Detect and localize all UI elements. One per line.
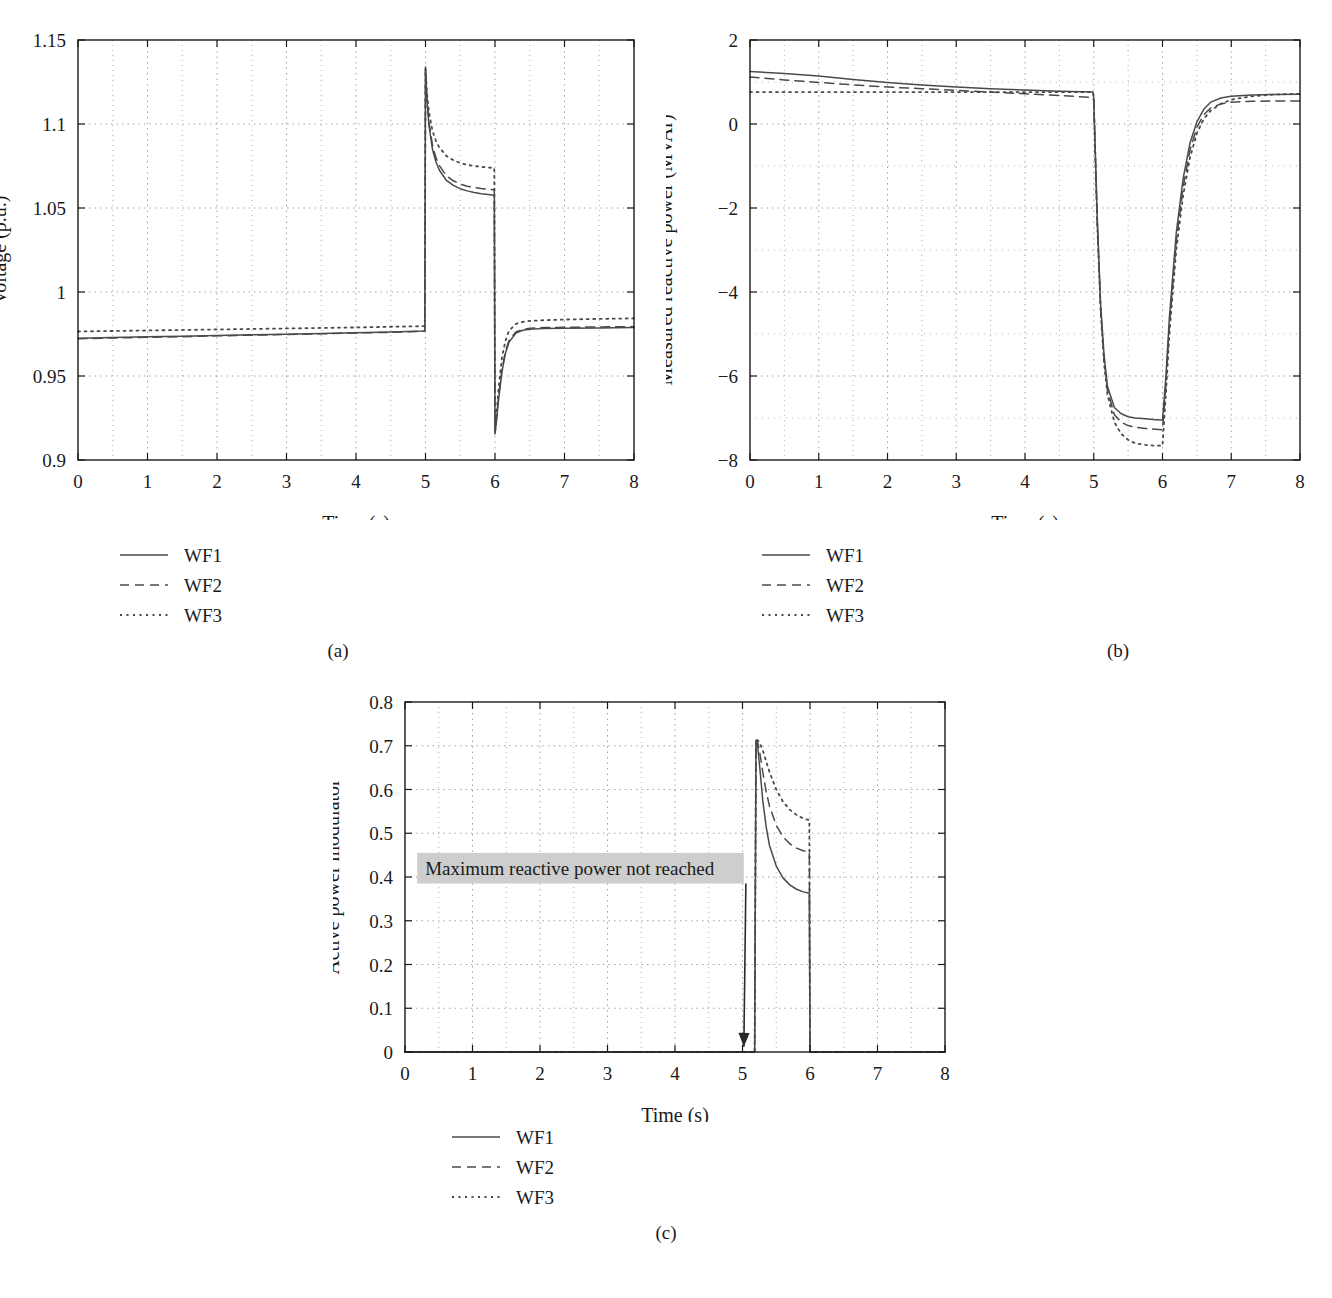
panel-a: 0123456780.90.9511.051.11.15Time (s)Volt…: [0, 0, 666, 520]
x-tick-label: 2: [535, 1063, 545, 1084]
x-tick-label: 8: [940, 1063, 950, 1084]
legend-key-dashed: [450, 1161, 502, 1173]
legend-item: WF2: [118, 570, 222, 600]
legend-key-solid: [760, 549, 812, 561]
legend-key-dotted: [760, 609, 812, 621]
y-tick-label: 0.4: [369, 867, 393, 888]
y-tick-label: 0.8: [369, 692, 393, 713]
x-tick-label: 1: [143, 471, 153, 492]
y-tick-label: 0.7: [369, 736, 393, 757]
legend-label-wf3: WF3: [516, 1188, 554, 1207]
annotation-text: Maximum reactive power not reached: [425, 858, 715, 879]
legend-a: WF1 WF2 WF3: [118, 540, 222, 630]
x-tick-label: 7: [873, 1063, 883, 1084]
legend-label-wf2: WF2: [184, 576, 222, 595]
legend-item: WF1: [118, 540, 222, 570]
legend-key-solid: [118, 549, 170, 561]
y-tick-label: 0.6: [369, 780, 393, 801]
x-tick-label: 7: [1227, 471, 1237, 492]
legend-key-solid: [450, 1131, 502, 1143]
y-tick-label: 0: [384, 1042, 394, 1063]
x-tick-label: 8: [1295, 471, 1305, 492]
y-tick-label: −4: [718, 282, 739, 303]
x-tick-label: 2: [212, 471, 222, 492]
legend-item: WF3: [760, 600, 864, 630]
legend-item: WF3: [450, 1182, 554, 1212]
legend-key-dashed: [760, 579, 812, 591]
legend-c: WF1 WF2 WF3: [450, 1122, 554, 1212]
x-tick-label: 3: [603, 1063, 613, 1084]
caption-c: (c): [606, 1222, 726, 1244]
legend-item: WF2: [450, 1152, 554, 1182]
annotation-arrow-head: [738, 1033, 749, 1047]
chart-a: 0123456780.90.9511.051.11.15Time (s)Volt…: [0, 0, 666, 520]
chart-c: 01234567800.10.20.30.40.50.60.70.8Time (…: [333, 672, 999, 1122]
y-tick-label: 2: [729, 30, 739, 51]
x-tick-label: 6: [490, 471, 500, 492]
series-wf2: [78, 70, 634, 432]
x-axis-title: Time (s): [991, 512, 1059, 520]
annotation-arrow-line: [744, 884, 746, 1047]
legend-item: WF3: [118, 600, 222, 630]
legend-key-dashed: [118, 579, 170, 591]
x-tick-label: 6: [1158, 471, 1168, 492]
y-tick-label: 1.05: [33, 198, 66, 219]
legend-b: WF1 WF2 WF3: [760, 540, 864, 630]
y-tick-label: 0.95: [33, 366, 66, 387]
legend-label-wf1: WF1: [516, 1128, 554, 1147]
y-tick-label: −2: [718, 198, 738, 219]
x-tick-label: 3: [952, 471, 962, 492]
y-tick-label: 0.5: [369, 823, 393, 844]
legend-label-wf3: WF3: [184, 606, 222, 625]
panel-b: 012345678−8−6−4−202Time (s)Measured reac…: [666, 0, 1332, 520]
x-tick-label: 0: [73, 471, 83, 492]
x-tick-label: 5: [421, 471, 431, 492]
legend-label-wf1: WF1: [184, 546, 222, 565]
y-tick-label: −8: [718, 450, 738, 471]
y-tick-label: 0.1: [369, 998, 393, 1019]
x-tick-label: 0: [745, 471, 755, 492]
y-tick-label: 0.9: [42, 450, 66, 471]
x-axis-title: Time (s): [322, 512, 390, 520]
caption-a: (a): [278, 640, 398, 662]
legend-label-wf2: WF2: [826, 576, 864, 595]
y-tick-label: 1.1: [42, 114, 66, 135]
y-axis-title: Measured reactive power (MVAr): [666, 114, 677, 385]
x-tick-label: 1: [814, 471, 824, 492]
legend-key-dotted: [450, 1191, 502, 1203]
x-tick-label: 4: [1020, 471, 1030, 492]
x-tick-label: 0: [400, 1063, 410, 1084]
x-tick-label: 4: [670, 1063, 680, 1084]
x-tick-label: 8: [629, 471, 639, 492]
y-axis-title: Voltage (p.u.): [0, 195, 11, 304]
y-axis-title: Active power modulator: [333, 779, 344, 975]
y-tick-label: 0.2: [369, 955, 393, 976]
legend-key-dotted: [118, 609, 170, 621]
chart-b: 012345678−8−6−4−202Time (s)Measured reac…: [666, 0, 1332, 520]
x-tick-label: 1: [468, 1063, 478, 1084]
y-tick-label: 1: [57, 282, 67, 303]
x-tick-label: 5: [1089, 471, 1099, 492]
legend-label-wf2: WF2: [516, 1158, 554, 1177]
x-tick-label: 4: [351, 471, 361, 492]
x-tick-label: 7: [560, 471, 570, 492]
x-axis-title: Time (s): [641, 1104, 709, 1122]
x-tick-label: 5: [738, 1063, 748, 1084]
caption-b: (b): [1058, 640, 1178, 662]
legend-label-wf1: WF1: [826, 546, 864, 565]
legend-item: WF1: [760, 540, 864, 570]
y-tick-label: 0: [729, 114, 739, 135]
x-tick-label: 6: [805, 1063, 815, 1084]
y-tick-label: 0.3: [369, 911, 393, 932]
x-tick-label: 2: [883, 471, 893, 492]
legend-item: WF2: [760, 570, 864, 600]
panel-c: 01234567800.10.20.30.40.50.60.70.8Time (…: [333, 672, 999, 1122]
y-tick-label: 1.15: [33, 30, 66, 51]
y-tick-label: −6: [718, 366, 738, 387]
legend-label-wf3: WF3: [826, 606, 864, 625]
legend-item: WF1: [450, 1122, 554, 1152]
x-tick-label: 3: [282, 471, 292, 492]
